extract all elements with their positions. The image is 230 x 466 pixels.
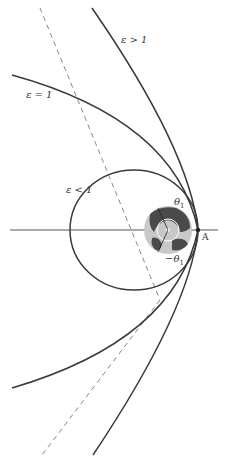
theta-negative-label: −θ1 [165, 253, 184, 267]
point-a-marker [196, 228, 200, 232]
theta-subscript: 1 [180, 202, 184, 210]
theta-symbol: −θ [165, 253, 179, 264]
ellipse-label: ε < 1 [66, 184, 92, 195]
earth-icon [144, 206, 192, 254]
point-a-label: A [202, 232, 209, 242]
theta-subscript: 1 [179, 259, 183, 267]
hyperbola-label: ε > 1 [121, 34, 147, 45]
parabola-label: ε = 1 [26, 89, 52, 100]
theta-positive-label: θ1 [174, 196, 185, 210]
dashed-line [40, 8, 160, 300]
orbit-diagram [0, 0, 230, 466]
